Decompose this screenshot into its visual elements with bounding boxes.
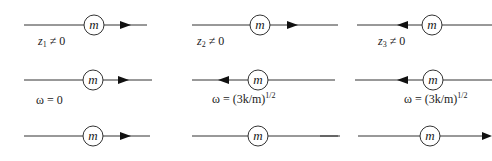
arrow-right-icon <box>120 132 131 140</box>
label-main: ω = (3k/m) <box>404 92 457 106</box>
mass-label: m <box>428 72 437 87</box>
label-main: ω = (3k/m) <box>212 92 265 106</box>
label-sup: 1/2 <box>265 91 275 100</box>
arrow-left-icon <box>397 76 408 84</box>
mode-label-z2: z2 ≠ 0 <box>197 34 224 49</box>
mass-label: m <box>255 17 264 32</box>
mode-label-z1: z1 ≠ 0 <box>38 34 65 49</box>
arrow-right-icon <box>118 76 129 84</box>
mode-label-z3: z3 ≠ 0 <box>378 34 405 49</box>
frequency-label-zero: ω = 0 <box>36 93 63 108</box>
label-rest: ≠ 0 <box>206 34 225 48</box>
arrow-right-icon <box>287 21 298 29</box>
mass-label: m <box>427 17 436 32</box>
mass-label: m <box>89 17 98 32</box>
arrow-right-icon <box>482 132 492 140</box>
arrow-left-icon <box>218 76 229 84</box>
label-rest: ≠ 0 <box>387 34 406 48</box>
frequency-label-sqrt3: ω = (3k/m)1/2 <box>212 91 276 107</box>
mass-label: m <box>425 128 434 143</box>
mass-label: m <box>88 128 97 143</box>
frequency-label-sqrt3: ω = (3k/m)1/2 <box>404 91 468 107</box>
mass-label: m <box>253 128 262 143</box>
mass-label: m <box>88 72 97 87</box>
normal-modes-diagram: m m m m m m m m m <box>0 0 492 161</box>
label-sup: 1/2 <box>457 91 467 100</box>
label-rest: ≠ 0 <box>47 34 66 48</box>
arrow-left-icon <box>397 21 408 29</box>
mass-label: m <box>253 72 262 87</box>
arrow-right-icon <box>120 21 131 29</box>
